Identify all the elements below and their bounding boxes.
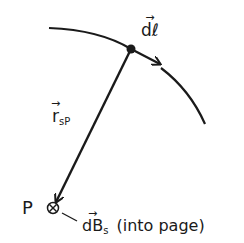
diagram-canvas	[0, 0, 244, 243]
wire-curve	[49, 28, 131, 49]
into-page-icon	[48, 203, 59, 214]
db-label: dBs (into page)	[82, 218, 205, 236]
point-p-label: P	[22, 199, 33, 217]
source-point-dot	[127, 45, 136, 54]
db-subscript: s	[103, 225, 108, 236]
dl-label: dℓ	[141, 22, 159, 39]
into-page-note: (into page)	[116, 216, 204, 235]
leader-line	[62, 213, 77, 221]
dl-text: dℓ	[141, 22, 159, 39]
r-subscript: sP	[59, 116, 70, 127]
dl-vector-arrow	[131, 49, 160, 64]
wire-curve-lower	[161, 68, 205, 124]
r-sp-label: rsP	[52, 108, 70, 127]
r-text: r	[52, 108, 59, 125]
db-text: dB	[82, 218, 103, 234]
